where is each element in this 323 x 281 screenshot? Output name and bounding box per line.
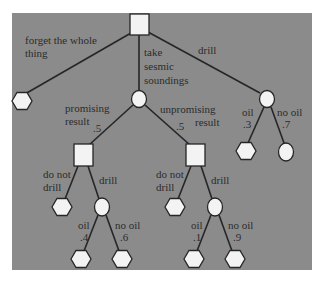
decision-node-promising-square (74, 144, 93, 166)
terminal-node-promising-nooil-hexagon (112, 251, 132, 268)
label-promising-probability: .5 (93, 122, 102, 134)
label-promising-oil-prob: .4 (80, 231, 89, 243)
label-promising-drill: drill (99, 174, 117, 186)
chance-node-seismic-circle (132, 91, 147, 108)
label-forget-line2: thing (25, 47, 48, 59)
decision-node-unpromising-square (186, 144, 205, 166)
terminal-node-unpromising-nooil-hexagon (225, 251, 245, 268)
terminal-node-unpromising-oil-hexagon (184, 251, 204, 268)
terminal-node-promising-donotdrill-hexagon (52, 199, 72, 216)
terminal-node-forget-hexagon (12, 93, 32, 110)
label-promising-line2: result (65, 115, 89, 127)
label-promising-nooil: no oil (115, 219, 140, 231)
label-unpromising-probability: .5 (176, 120, 185, 132)
label-unpromising-line1: unpromising (160, 103, 216, 115)
terminal-node-unpromising-donotdrill-hexagon (165, 199, 185, 216)
chance-node-promising-drill-circle (95, 198, 110, 216)
label-root-drill: drill (198, 44, 216, 56)
chance-node-drill-nooil-circle (279, 143, 294, 161)
label-unpromising-oil: oil (191, 219, 203, 231)
label-drill-oil: oil (242, 106, 254, 118)
label-drill-nooil-prob: .7 (282, 118, 291, 130)
label-unpromising-line2: result (195, 116, 219, 128)
label-unpromising-donotdrill-line1: do not (156, 168, 184, 180)
label-unpromising-donotdrill-line2: drill (156, 181, 174, 193)
label-seismic-line2: sesmic (144, 60, 174, 72)
label-forget-line1: forget the whole (25, 34, 97, 46)
label-promising-donotdrill-line2: drill (43, 181, 61, 193)
label-drill-oil-prob: .3 (243, 118, 252, 130)
chance-node-drill-circle (260, 91, 275, 108)
chance-node-unpromising-drill-circle (208, 198, 223, 216)
label-drill-nooil: no oil (277, 106, 302, 118)
label-unpromising-nooil-prob: .9 (233, 231, 242, 243)
decision-tree-diagram: forget the whole thing take sesmic sound… (0, 0, 323, 281)
label-seismic-line3: soundings (144, 74, 189, 86)
label-promising-line1: promising (65, 102, 110, 114)
label-unpromising-nooil: no oil (228, 219, 253, 231)
label-promising-oil: oil (78, 219, 90, 231)
label-seismic-line1: take (144, 46, 162, 58)
terminal-node-promising-oil-hexagon (71, 251, 91, 268)
terminal-node-drill-oil-hexagon (236, 143, 256, 160)
root-decision-node-square (130, 14, 149, 35)
label-promising-nooil-prob: .6 (120, 231, 129, 243)
label-unpromising-oil-prob: .1 (193, 231, 201, 243)
label-unpromising-drill: drill (211, 174, 229, 186)
label-promising-donotdrill-line1: do not (43, 168, 71, 180)
